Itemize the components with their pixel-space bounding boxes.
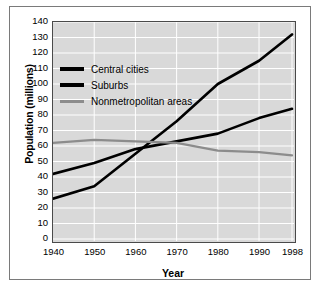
legend-swatch-icon: [60, 100, 84, 103]
series-lines: [53, 34, 292, 198]
y-tick-label: 50: [18, 156, 48, 166]
y-tick-label: 140: [18, 16, 48, 26]
chart-container: Population (millions) 140130120110100908…: [0, 0, 320, 287]
legend-item-central-cities: Central cities: [60, 62, 220, 76]
x-tick-label: 1970: [157, 246, 197, 257]
x-axis-ticks: 1940195019601970198019901998: [0, 246, 320, 262]
y-tick-label: 130: [18, 32, 48, 42]
legend-swatch-icon: [60, 67, 84, 71]
x-tick-label: 1940: [34, 246, 74, 257]
x-tick-label: 1960: [116, 246, 156, 257]
plot-svg: [53, 22, 294, 241]
y-tick-label: 90: [18, 94, 48, 104]
legend-label: Suburbs: [91, 80, 128, 91]
y-axis-ticks: 1401301201101009080706050403020100: [16, 0, 48, 287]
y-tick-label: 10: [18, 218, 48, 228]
x-tick-label: 1998: [273, 246, 313, 257]
x-tick-label: 1980: [198, 246, 238, 257]
y-tick-label: 40: [18, 171, 48, 181]
chart-legend: Central cities Suburbs Nonmetropolitan a…: [60, 62, 220, 110]
y-tick-label: 100: [18, 78, 48, 88]
legend-item-suburbs: Suburbs: [60, 78, 220, 92]
plot-area: [52, 21, 296, 243]
x-tick-label: 1950: [75, 246, 115, 257]
y-tick-label: 120: [18, 47, 48, 57]
y-tick-label: 0: [18, 233, 48, 243]
y-tick-label: 70: [18, 125, 48, 135]
y-tick-label: 20: [18, 202, 48, 212]
legend-label: Nonmetropolitan areas: [91, 96, 192, 107]
legend-label: Central cities: [91, 64, 149, 75]
legend-swatch-icon: [60, 83, 84, 87]
y-tick-label: 80: [18, 109, 48, 119]
y-tick-label: 110: [18, 63, 48, 73]
gridlines-horizontal: [53, 22, 294, 239]
y-tick-label: 30: [18, 187, 48, 197]
legend-item-nonmetropolitan-areas: Nonmetropolitan areas: [60, 94, 220, 108]
y-tick-label: 60: [18, 140, 48, 150]
x-axis-title: Year: [48, 267, 298, 279]
